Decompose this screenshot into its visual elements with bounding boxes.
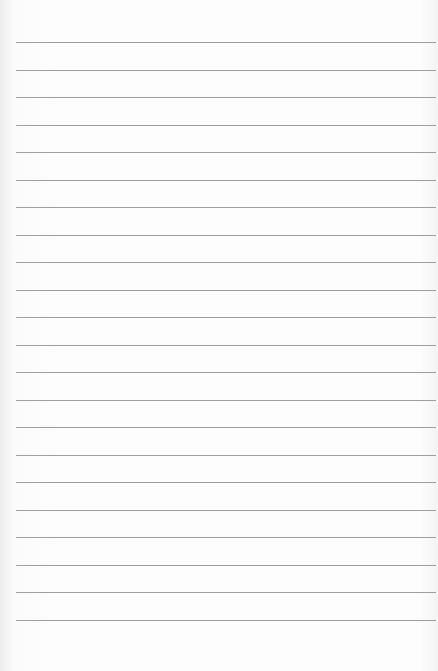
ruled-line — [16, 372, 436, 373]
ruled-line — [16, 455, 436, 456]
lined-paper-sheet — [0, 0, 438, 671]
ruled-line — [16, 565, 436, 566]
ruled-line — [16, 262, 436, 263]
ruled-line — [16, 290, 436, 291]
ruled-line — [16, 592, 436, 593]
ruled-line — [16, 345, 436, 346]
ruled-line — [16, 70, 436, 71]
ruled-line — [16, 42, 436, 43]
ruled-line — [16, 97, 436, 98]
ruled-line — [16, 152, 436, 153]
ruled-line — [16, 510, 436, 511]
ruled-line — [16, 620, 436, 621]
ruled-line — [16, 235, 436, 236]
ruled-line — [16, 180, 436, 181]
ruled-line — [16, 400, 436, 401]
ruled-line — [16, 427, 436, 428]
ruled-line — [16, 207, 436, 208]
ruled-line — [16, 537, 436, 538]
ruled-line — [16, 482, 436, 483]
ruled-line — [16, 317, 436, 318]
ruled-line — [16, 125, 436, 126]
